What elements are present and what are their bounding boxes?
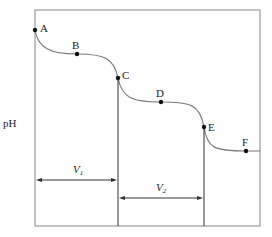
- v2-arrow: [119, 196, 203, 200]
- v1-arrow: [36, 178, 117, 182]
- plot-frame: [35, 10, 260, 226]
- label-d: D: [156, 87, 164, 99]
- point-a: [33, 28, 37, 32]
- label-f: F: [242, 136, 248, 148]
- label-b: B: [72, 39, 79, 51]
- v1-label: V1: [73, 163, 83, 177]
- titration-curve: [35, 30, 260, 151]
- point-d: [159, 100, 163, 104]
- point-c: [116, 76, 120, 80]
- label-a: A: [40, 22, 48, 34]
- point-b: [75, 52, 79, 56]
- point-f: [244, 149, 248, 153]
- label-c: C: [122, 69, 129, 81]
- point-e: [202, 125, 206, 129]
- titration-diagram: A B C D E F pH V1 V2: [0, 0, 272, 237]
- y-axis-label: pH: [3, 117, 17, 129]
- label-e: E: [208, 121, 215, 133]
- v2-label: V2: [156, 181, 167, 195]
